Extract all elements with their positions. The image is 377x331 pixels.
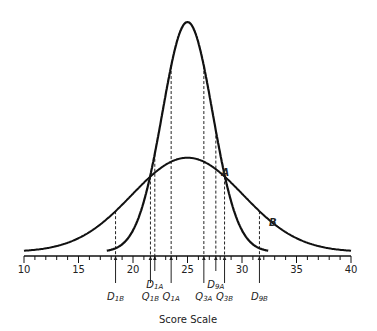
- x-tick-label: 20: [127, 264, 140, 275]
- x-axis: 10152025303540: [18, 256, 358, 275]
- marker-label-d1b: D1B: [107, 291, 124, 303]
- curve-b: [24, 158, 351, 251]
- chart-canvas: 10152025303540 D1BQ1BD1AQ1AQ3AD9AQ3BD9B …: [0, 0, 377, 331]
- marker-label-q3b: Q3B: [216, 291, 233, 303]
- marker-label-d1a: D1A: [146, 279, 163, 291]
- marker-label-q3a: Q3A: [195, 291, 212, 303]
- x-axis-title: Score Scale: [159, 314, 217, 325]
- marker-label-d9a: D9A: [207, 279, 224, 291]
- x-tick-label: 10: [18, 264, 31, 275]
- marker-label-q1b: Q1B: [142, 291, 159, 303]
- x-tick-label: 25: [181, 264, 194, 275]
- marker-dashed-lines: [114, 66, 261, 283]
- curve-a: [107, 22, 268, 251]
- marker-label-d9b: D9B: [251, 291, 268, 303]
- marker-labels: D1BQ1BD1AQ1AQ3AD9AQ3BD9B: [107, 279, 268, 303]
- x-tick-label: 35: [290, 264, 303, 275]
- curve-a-label: A: [220, 167, 229, 178]
- x-tick-label: 15: [72, 264, 85, 275]
- x-tick-label: 40: [345, 264, 358, 275]
- curve-b-label: B: [269, 217, 277, 228]
- marker-label-q1a: Q1A: [163, 291, 180, 303]
- x-tick-label: 30: [236, 264, 249, 275]
